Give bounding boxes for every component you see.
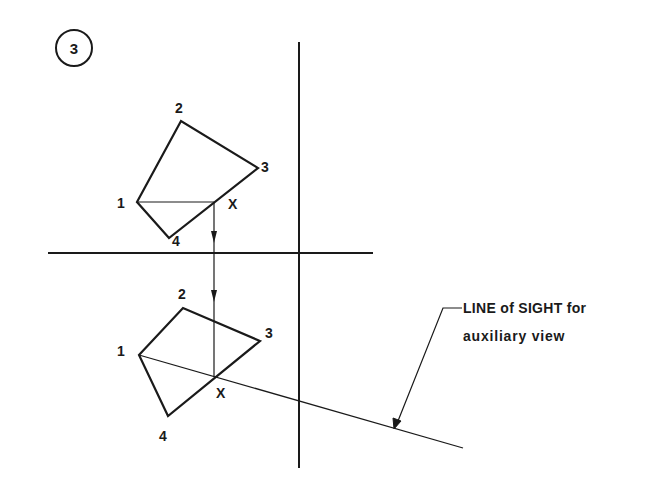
line-of-sight-annotation: LINE of SIGHT for auxiliary view [393,300,587,429]
leader-line [396,308,462,426]
front-label-4: 4 [159,428,167,444]
front-label-x: X [216,385,226,401]
orthographic-projection-diagram: 3 1 2 3 4 X 1 2 3 4 X LINE of SIGHT for … [0,0,654,491]
top-label-2: 2 [175,100,183,116]
top-label-x: X [228,196,238,212]
step-number-badge: 3 [56,30,92,66]
annotation-line-2: auxiliary view [463,328,565,344]
front-label-1: 1 [117,343,125,359]
front-view: 1 2 3 4 X [117,286,463,448]
front-label-3: 3 [265,325,273,341]
line-of-sight [139,355,463,448]
front-label-2: 2 [178,286,186,302]
top-label-4: 4 [172,233,180,249]
front-view-quadrilateral [139,308,260,416]
leader-arrowhead-icon [393,418,401,429]
annotation-line-1: LINE of SIGHT for [463,300,587,316]
step-number: 3 [70,40,78,57]
top-label-3: 3 [261,159,269,175]
arrowhead-icon [211,231,217,243]
arrowhead-icon [211,290,217,302]
top-label-1: 1 [117,195,125,211]
top-view-quadrilateral [137,121,258,238]
